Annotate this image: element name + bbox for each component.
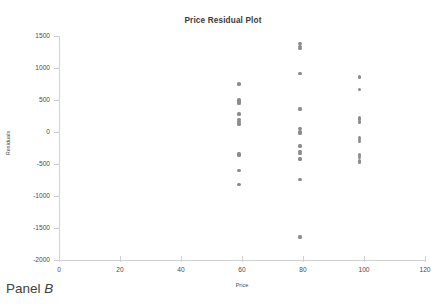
x-axis-tick-label: 20: [100, 266, 140, 273]
panel-caption: Panel B: [6, 281, 53, 296]
x-axis-tick-label: 120: [405, 266, 445, 273]
plot-area: [59, 36, 425, 260]
y-axis-tick-label: 1000: [8, 64, 50, 71]
scatter-point: [237, 82, 240, 85]
y-axis-tick-label: -1500: [8, 224, 50, 231]
panel-caption-prefix: Panel: [6, 281, 44, 296]
scatter-point: [358, 121, 361, 124]
x-axis-tick-label: 80: [283, 266, 323, 273]
scatter-point: [298, 235, 301, 238]
panel-caption-letter: B: [44, 281, 53, 296]
scatter-point: [298, 144, 301, 147]
scatter-point: [298, 152, 301, 155]
y-axis-tick-label: 1500: [8, 32, 50, 39]
x-axis-tick-label: 0: [39, 266, 79, 273]
x-axis-tick-label: 40: [161, 266, 201, 273]
scatter-point: [358, 140, 361, 143]
scatter-point: [298, 127, 301, 130]
scatter-point: [358, 160, 361, 163]
y-axis-tick-label: -1000: [8, 192, 50, 199]
scatter-point: [237, 123, 240, 126]
scatter-point: [237, 153, 240, 156]
scatter-point: [298, 132, 301, 135]
x-axis-tick: [425, 256, 426, 262]
scatter-point: [298, 158, 301, 161]
y-axis-tick-label: 0: [8, 128, 50, 135]
scatter-point: [298, 72, 301, 75]
x-axis-tick-label: 60: [222, 266, 262, 273]
y-axis-tick-label: -2000: [8, 256, 50, 263]
scatter-point: [237, 183, 240, 186]
x-axis-tick-label: 100: [344, 266, 384, 273]
scatter-point: [298, 178, 301, 181]
figure-container: Price Residual Plot 150010005000-500-100…: [0, 0, 446, 306]
scatter-point: [237, 169, 240, 172]
scatter-point: [237, 102, 240, 105]
scatter-point: [358, 88, 361, 91]
chart-title: Price Residual Plot: [0, 16, 446, 25]
y-axis-tick-label: 500: [8, 96, 50, 103]
scatter-point: [358, 75, 361, 78]
x-axis-title: Price: [59, 282, 425, 288]
scatter-point: [298, 107, 301, 110]
scatter-point: [237, 112, 240, 115]
y-axis-title: Residuals: [5, 113, 11, 173]
chart-area: Price Residual Plot 150010005000-500-100…: [0, 0, 446, 278]
y-axis-tick-label: -500: [8, 160, 50, 167]
scatter-point: [298, 47, 301, 50]
